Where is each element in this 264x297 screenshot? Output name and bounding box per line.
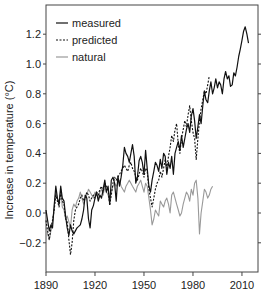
y-tick-label: 1.2 [26, 28, 41, 40]
y-tick-label: 0.2 [26, 177, 41, 189]
y-tick-label: 0.8 [26, 88, 41, 100]
temperature-chart: −0.20.00.20.40.60.81.01.2 18901920195019… [0, 0, 264, 297]
y-tick-label: 1.0 [26, 58, 41, 70]
x-tick-label: 1890 [34, 279, 58, 291]
x-axis: 18901920195019802010 [34, 272, 254, 291]
x-tick-label: 1980 [181, 279, 205, 291]
series-line-natural [46, 180, 213, 240]
x-tick-label: 2010 [230, 279, 254, 291]
x-tick-label: 1920 [83, 279, 107, 291]
y-tick-label: −0.2 [19, 237, 41, 249]
legend-label-measured: measured [72, 17, 121, 29]
y-tick-label: 0.4 [26, 147, 41, 159]
legend-label-natural: natural [72, 51, 106, 63]
legend-label-predicted: predicted [72, 34, 117, 46]
legend: measured predicted natural [56, 17, 121, 63]
y-tick-label: 0.6 [26, 118, 41, 130]
y-axis: −0.20.00.20.40.60.81.01.2 [19, 28, 261, 249]
x-tick-label: 1950 [132, 279, 156, 291]
y-tick-label: 0.0 [26, 207, 41, 219]
y-axis-title: Increase in temperature (°C) [3, 81, 15, 220]
